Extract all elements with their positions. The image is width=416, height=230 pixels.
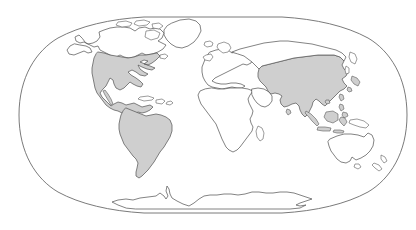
canadian-arctic-island-1 bbox=[116, 21, 132, 27]
world-map-container bbox=[0, 0, 416, 230]
java-island bbox=[317, 127, 331, 131]
iceland-landmass bbox=[204, 41, 213, 47]
region-iceland bbox=[204, 41, 213, 47]
lesser-sunda-island bbox=[333, 130, 344, 133]
world-map-svg bbox=[0, 0, 416, 230]
